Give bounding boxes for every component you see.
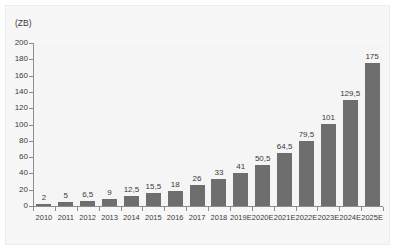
y-axis-tick-mark	[29, 59, 33, 60]
bar[interactable]	[211, 179, 226, 206]
bar-value-label: 79,5	[290, 131, 322, 139]
y-axis-tick-mark	[29, 190, 33, 191]
y-axis-tick-label: 200	[0, 39, 28, 47]
x-axis-tick-mark	[296, 207, 297, 211]
y-axis-tick-label: 0	[0, 202, 28, 210]
x-axis-tick-mark	[77, 207, 78, 211]
x-axis-tick-mark	[164, 207, 165, 211]
y-axis-tick-label: 140	[0, 88, 28, 96]
bar[interactable]	[255, 165, 270, 206]
bar[interactable]	[299, 141, 314, 206]
y-axis-tick-label: 40	[0, 169, 28, 177]
x-axis-tick-mark	[383, 207, 384, 211]
bar-value-label: 129,5	[334, 90, 366, 98]
x-axis-tick-mark	[274, 207, 275, 211]
bar[interactable]	[36, 204, 51, 206]
bar[interactable]	[233, 173, 248, 206]
y-axis-tick-label: 60	[0, 153, 28, 161]
y-axis-tick-mark	[29, 157, 33, 158]
y-axis-tick-mark	[29, 125, 33, 126]
x-axis-tick-mark	[317, 207, 318, 211]
y-axis-tick-label: 180	[0, 55, 28, 63]
bar[interactable]	[321, 124, 336, 206]
x-axis-tick-mark	[230, 207, 231, 211]
x-axis-tick-mark	[186, 207, 187, 211]
y-axis-tick-mark	[29, 108, 33, 109]
y-axis-tick-mark	[29, 76, 33, 77]
bar[interactable]	[58, 202, 73, 206]
bar[interactable]	[277, 153, 292, 206]
x-axis-tick-mark	[252, 207, 253, 211]
x-axis-tick-mark	[339, 207, 340, 211]
bar-value-label: 41	[225, 163, 257, 171]
bar[interactable]	[80, 201, 95, 206]
x-axis-tick-mark	[55, 207, 56, 211]
bar-value-label: 175	[356, 53, 388, 61]
x-axis-tick-mark	[33, 207, 34, 211]
chart-container: (ZB) 020406080100120140160180200 256,591…	[0, 0, 395, 250]
y-axis-tick-label: 120	[0, 104, 28, 112]
y-axis-tick-label: 20	[0, 186, 28, 194]
bar-value-label: 101	[312, 114, 344, 122]
x-axis-tick-mark	[361, 207, 362, 211]
x-axis-tick-label: 2025E	[357, 214, 387, 222]
bar[interactable]	[124, 196, 139, 206]
x-axis-tick-mark	[121, 207, 122, 211]
y-axis-tick-mark	[29, 173, 33, 174]
x-axis-tick-mark	[142, 207, 143, 211]
y-axis-tick-label: 100	[0, 121, 28, 129]
x-axis-tick-mark	[99, 207, 100, 211]
y-axis-tick-mark	[29, 141, 33, 142]
y-axis-tick-mark	[29, 92, 33, 93]
bar[interactable]	[190, 185, 205, 206]
bar[interactable]	[146, 193, 161, 206]
bar-value-label: 64,5	[269, 143, 301, 151]
bar[interactable]	[343, 100, 358, 206]
bar[interactable]	[168, 191, 183, 206]
y-axis-tick-label: 160	[0, 72, 28, 80]
y-axis-line	[33, 43, 34, 207]
bar[interactable]	[365, 63, 380, 206]
bar-value-label: 50,5	[247, 155, 279, 163]
y-axis-tick-label: 80	[0, 137, 28, 145]
y-axis-unit-label: (ZB)	[15, 18, 32, 28]
y-axis-tick-mark	[29, 43, 33, 44]
x-axis-tick-mark	[208, 207, 209, 211]
bar[interactable]	[102, 199, 117, 206]
